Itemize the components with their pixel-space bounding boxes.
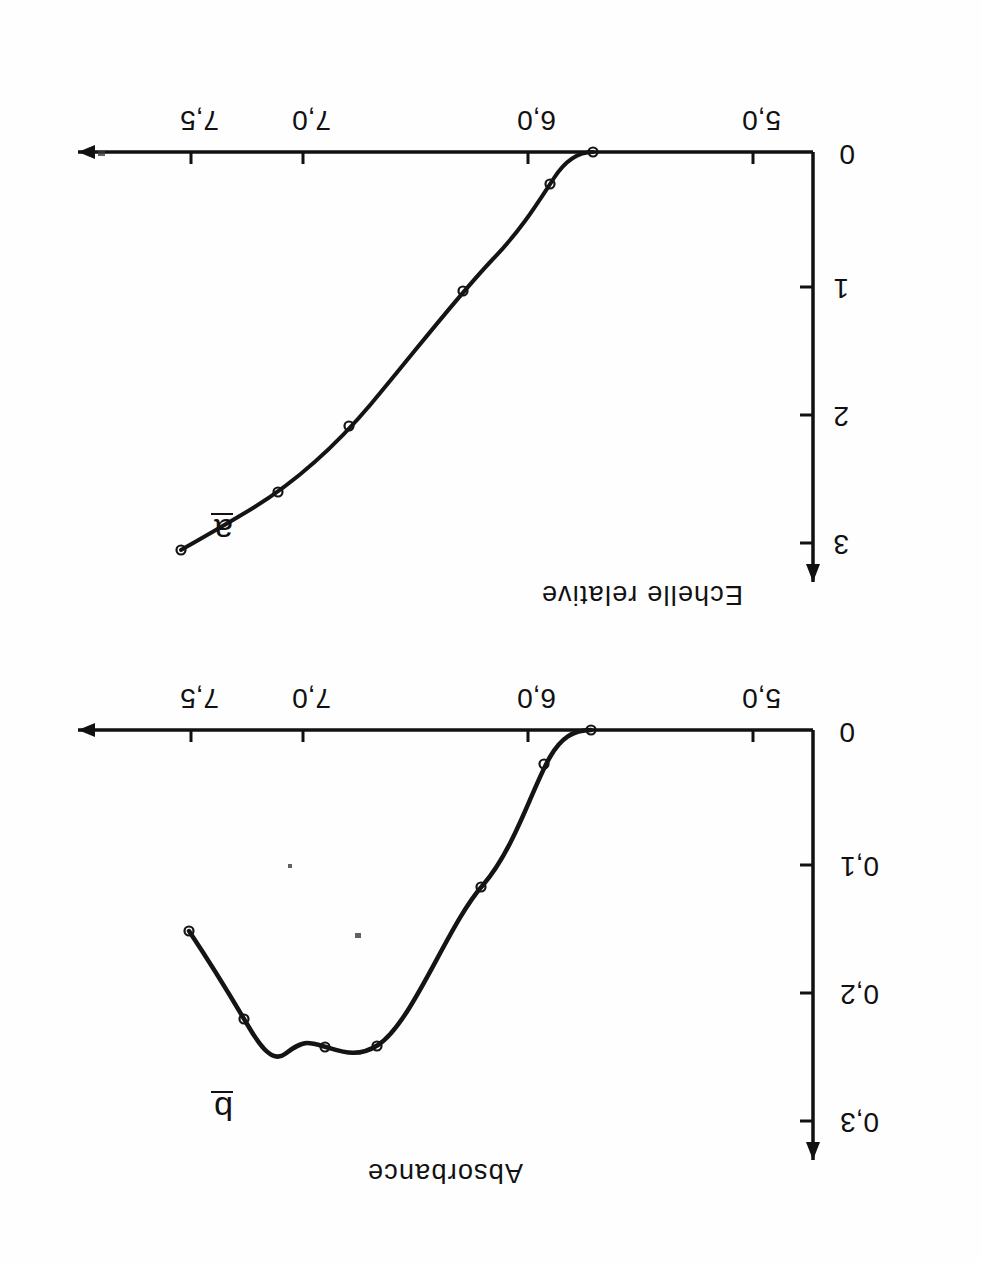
panel-a-xtick-label-7_5: 7,5: [180, 104, 219, 136]
panel-a-xtick-label-5_0: 5,0: [742, 104, 781, 136]
panel-a-ytick-label-3: 3: [833, 528, 849, 560]
panel-b-ytick-label-0_1: 0,1: [840, 850, 879, 882]
scanned-figure-page: b Absorbance 0 0,1 0,2 0,3 5,0 6,0 7,0 7…: [0, 0, 981, 1262]
panel-b-ytick-label-0_2: 0,2: [840, 978, 879, 1010]
panel-b-xtick-label-5_0: 5,0: [742, 682, 781, 714]
panel-a-x-axis-arrowhead: [78, 145, 95, 159]
figure-rotated-container: b Absorbance 0 0,1 0,2 0,3 5,0 6,0 7,0 7…: [0, 0, 981, 1262]
panel-b-label: b: [211, 1091, 233, 1128]
panel-a-data-curve: [181, 152, 593, 550]
panel-b-y-axis-arrowhead: [806, 1142, 820, 1160]
panel-b-xtick-label-7_5: 7,5: [180, 682, 219, 714]
panel-b-x-axis-arrowhead: [78, 723, 95, 737]
scan-speck: [288, 864, 292, 868]
panel-a-ytick-label-0: 0: [839, 138, 855, 170]
panel-a-xtick-label-6_0: 6,0: [517, 104, 556, 136]
panel-a-ytick-label-2: 2: [833, 400, 849, 432]
panel-b-data-curve: [189, 730, 591, 1057]
panel-b-y-axis-title: Absorbance: [367, 1157, 523, 1188]
panel-a-ytick-label-1: 1: [833, 272, 849, 304]
panel-b-plot: [33, 640, 933, 1200]
panel-a-label: a: [211, 513, 233, 550]
panel-b: b Absorbance 0 0,1 0,2 0,3 5,0 6,0 7,0 7…: [33, 640, 933, 1200]
panel-b-xtick-label-7_0: 7,0: [292, 682, 331, 714]
panel-b-ytick-label-0: 0: [839, 716, 855, 748]
panel-a-xtick-label-7_0: 7,0: [292, 104, 331, 136]
panel-a-plot: [33, 62, 933, 622]
panel-a: a Echelle relative 0 1 2 3 5,0 6,0 7,0 7…: [33, 62, 933, 622]
panel-b-ytick-label-0_3: 0,3: [840, 1106, 879, 1138]
panel-a-y-axis-arrowhead: [806, 564, 820, 582]
scan-speck: [98, 151, 105, 156]
scan-speck: [355, 933, 361, 938]
panel-b-xtick-label-6_0: 6,0: [517, 682, 556, 714]
panel-a-y-axis-title: Echelle relative: [541, 579, 743, 610]
